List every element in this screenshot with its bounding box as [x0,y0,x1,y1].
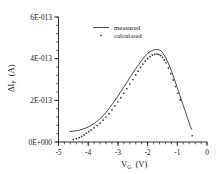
calculated-point [160,55,162,57]
calculated-point [111,109,113,111]
calculated-point [144,60,146,62]
calculated-point [83,134,85,136]
calculated-point [96,125,98,127]
y-axis-tick-labels: 0E+0002E-0134E-0136E-013 [29,13,53,147]
x-axis-title-unit: (V) [135,159,147,169]
y-axis-major-ticks [55,17,59,142]
x-tick-label: -2 [145,148,151,157]
calculated-point [88,131,90,133]
calculated-point [105,116,107,118]
calculated-point [117,101,119,103]
calculated-point [86,132,88,134]
calculated-point [126,88,128,90]
plot-area: 0E+0002E-0134E-0136E-013 -5-4-3-2-10 mea… [0,0,217,174]
calculated-point [163,59,165,61]
svg-text:VG (V): VG (V) [121,159,147,170]
calculated-point [142,63,144,65]
y-tick-label: 4E-013 [30,54,52,63]
calculated-point [177,92,179,94]
y-axis-title-main: ΔI [6,83,16,92]
chart-figure: 0E+0002E-0134E-0136E-013 -5-4-3-2-10 mea… [0,0,217,174]
calculated-point [147,58,149,60]
legend: measured calculated [93,24,142,39]
series-measured [70,50,192,132]
x-axis-major-ticks [59,142,208,146]
series-calculated [73,53,193,140]
calculated-point [149,56,151,58]
x-tick-label: -5 [55,148,61,157]
calculated-point [123,92,125,94]
calculated-point [179,99,181,101]
calculated-point [191,135,193,137]
measured-line [70,50,192,132]
y-axis-title: ΔIF (A) [6,64,17,92]
calculated-point [78,137,80,139]
legend-calculated-swatch [100,35,102,37]
calculated-point [137,70,139,72]
y-tick-label: 0E+000 [29,138,53,147]
calculated-point [120,97,122,99]
x-tick-label: 0 [205,148,209,157]
y-axis-title-unit: (A) [6,64,16,76]
y-tick-label: 6E-013 [30,13,52,22]
calculated-point [175,86,177,88]
calculated-point [75,138,77,140]
x-axis-group: -5-4-3-2-10 [55,142,209,157]
x-tick-label: -1 [174,148,180,157]
calculated-point [140,67,142,69]
calculated-point [99,122,101,124]
x-axis-tick-labels: -5-4-3-2-10 [55,148,209,157]
legend-label-calculated: calculated [114,32,142,39]
calculated-point [135,74,137,76]
x-tick-label: -4 [85,148,91,157]
calculated-point [158,54,160,56]
calculated-point [154,53,156,55]
calculated-point [81,136,83,138]
calculated-point [170,73,172,75]
calculated-point [90,129,92,131]
calculated-point [102,119,104,121]
calculated-point [156,53,158,55]
calculated-point [129,83,131,85]
x-tick-label: -3 [115,148,121,157]
calculated-point [162,57,164,59]
calculated-point [93,127,95,129]
calculated-point [168,67,170,69]
legend-label-measured: measured [114,24,141,31]
calculated-point [114,105,116,107]
calculated-point [132,79,134,81]
calculated-point [165,62,167,64]
calculated-point [152,54,154,56]
calculated-point [73,139,75,141]
y-axis-group: 0E+0002E-0134E-0136E-013 [29,13,59,147]
svg-text:ΔIF (A): ΔIF (A) [6,64,17,92]
calculated-point [108,113,110,115]
calculated-point [172,79,174,81]
x-axis-title: VG (V) [121,159,147,170]
y-tick-label: 2E-013 [30,96,52,105]
